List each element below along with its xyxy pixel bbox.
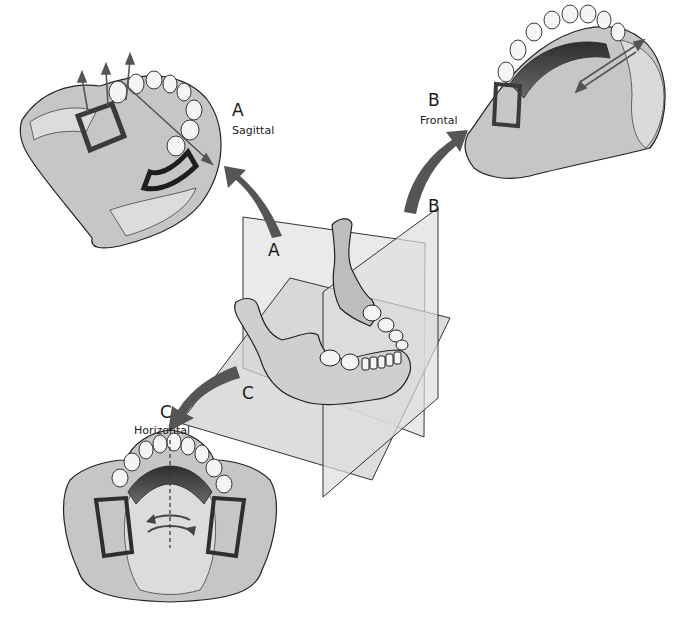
view-letter-b: B [428,90,440,110]
view-name-frontal: Frontal [420,114,458,127]
diagram-canvas [0,0,687,621]
horizontal-view-cast [64,430,277,602]
view-name-sagittal: Sagittal [232,124,274,137]
plane-label-a: A [268,240,280,260]
sagittal-view-cast [20,54,221,248]
plane-label-b: B [428,196,440,216]
central-planes-group [180,208,450,497]
frontal-view-cast [465,5,665,178]
plane-label-c: C [242,383,254,403]
view-name-horizontal: Horizontal [134,424,190,437]
view-letter-c: C [160,402,172,422]
view-letter-a: A [232,100,244,120]
